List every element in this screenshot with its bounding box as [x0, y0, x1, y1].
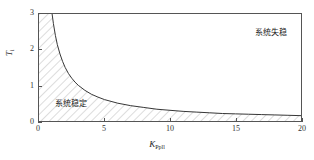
x-tick-mark [104, 118, 105, 122]
annotation-unstable-region: 系统失稳 [255, 28, 287, 38]
y-axis-label: Ti [4, 49, 18, 56]
x-tick-label: 5 [92, 124, 116, 134]
x-axis-label: KPpll [0, 139, 314, 153]
annotation-stable-region: 系统稳定 [55, 99, 87, 109]
x-tick-label: 20 [290, 124, 314, 134]
x-tick-mark [236, 118, 237, 122]
y-tick-mark [38, 86, 42, 87]
plot-area: 系统失稳 系统稳定 [38, 13, 302, 122]
x-axis-label-subscript: Ppll [155, 144, 165, 150]
y-axis-label-symbol: T [4, 51, 14, 56]
chart-figure: 系统失稳 系统稳定 05101520 0123 KPpll Ti [0, 0, 314, 160]
y-tick-label: 1 [16, 81, 34, 91]
x-tick-mark [170, 118, 171, 122]
y-tick-label: 2 [16, 44, 34, 54]
y-axis-label-subscript: i [9, 49, 15, 51]
x-tick-mark [302, 118, 303, 122]
y-tick-mark [38, 122, 42, 123]
y-tick-label: 3 [16, 8, 34, 18]
y-tick-mark [38, 13, 42, 14]
x-tick-label: 10 [158, 124, 182, 134]
x-tick-label: 15 [224, 124, 248, 134]
y-tick-mark [38, 49, 42, 50]
y-tick-label: 0 [16, 117, 34, 127]
